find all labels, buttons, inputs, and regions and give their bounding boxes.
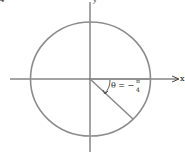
figure-mark: 4 [0, 0, 4, 4]
y-axis-label: y [93, 0, 97, 4]
angle-frac-num: π [136, 77, 140, 84]
angle-label: θ = − [111, 81, 134, 90]
x-axis-label: x [180, 74, 185, 83]
unit-circle-diagram [0, 0, 185, 153]
angle-frac-den: 4 [136, 86, 140, 93]
